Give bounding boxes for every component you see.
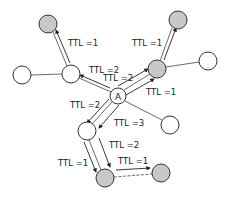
flooding-diagram: A TTL =1 TTL =1 TTL =2 TTL =2 TTL =1 TTL… — [0, 0, 227, 199]
node-bottom-right-reached — [152, 164, 170, 182]
ttl-label-topright: TTL =1 — [131, 38, 162, 48]
node-lower — [78, 122, 96, 140]
ttl-label-a-right-2: TTL =1 — [145, 87, 176, 97]
arrow-bottomgray-to-bottomright — [116, 168, 150, 170]
ttl-label-bottom-right: TTL =1 — [117, 156, 148, 166]
node-top-left-reached — [39, 15, 57, 33]
node-far-left — [13, 66, 31, 84]
ttl-label-lower-bottom-1: TTL =1 — [57, 158, 88, 168]
edge-lower-bottomgray — [89, 140, 101, 170]
node-bottom-right — [161, 116, 179, 134]
edge-bottomgray-bottomright — [114, 174, 152, 177]
edge-topleft-left — [53, 32, 67, 66]
nodes: A — [13, 11, 217, 187]
ttl-label-a-lower-1: TTL =2 — [69, 100, 100, 110]
node-bottom-reached — [96, 169, 114, 187]
ttl-label-topleft: TTL =1 — [67, 38, 98, 48]
node-right-reached — [148, 60, 166, 78]
ttl-label-a-lower-2: TTL =3 — [113, 118, 144, 128]
source-node-label: A — [115, 92, 122, 102]
ttl-label-a-right-1: TTL =2 — [102, 73, 133, 83]
node-top-right-reached — [169, 11, 187, 29]
ttl-label-lower-bottom-2: TTL =2 — [108, 140, 139, 150]
edge-farleft-left — [31, 74, 62, 75]
node-left — [62, 65, 80, 83]
edge-rightgray-farright — [166, 62, 199, 67]
node-far-right — [199, 52, 217, 70]
